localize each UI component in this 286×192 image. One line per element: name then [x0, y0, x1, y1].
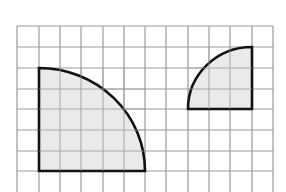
- small-quarter-circle: [188, 47, 252, 109]
- grid-diagram: [0, 0, 286, 192]
- large-quarter-circle: [39, 68, 145, 171]
